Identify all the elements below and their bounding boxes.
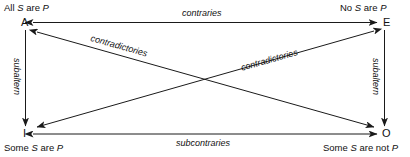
proposition-o-prefix: Some xyxy=(323,142,350,153)
proposition-i: Some S are P xyxy=(4,143,63,153)
proposition-i-prefix: Some xyxy=(4,142,31,153)
proposition-i-predicate: P xyxy=(57,142,63,153)
proposition-e-mid: are xyxy=(361,2,380,13)
proposition-o-predicate: P xyxy=(392,142,398,153)
proposition-e-predicate: P xyxy=(380,2,386,13)
vertex-letter-i: I xyxy=(23,128,26,139)
proposition-a-prefix: All xyxy=(4,2,17,13)
proposition-a-predicate: P xyxy=(43,2,49,13)
relation-label-subcontraries: subcontraries xyxy=(176,139,230,148)
relation-label-subaltern-right: subaltern xyxy=(371,58,380,95)
proposition-e: No S are P xyxy=(340,3,387,13)
relation-label-subaltern-left: subaltern xyxy=(12,58,21,95)
vertex-letter-e: E xyxy=(383,17,390,28)
relation-label-contraries: contraries xyxy=(182,9,222,18)
proposition-o: Some S are not P xyxy=(323,143,398,153)
proposition-a-mid: are xyxy=(24,2,43,13)
proposition-o-mid: are not xyxy=(357,142,392,153)
proposition-e-prefix: No xyxy=(340,2,355,13)
vertex-letter-o: O xyxy=(382,128,391,139)
vertex-letter-a: A xyxy=(21,17,28,28)
proposition-a: All S are P xyxy=(4,3,49,13)
square-of-opposition-lines xyxy=(0,0,410,157)
proposition-i-mid: are xyxy=(38,142,57,153)
square-of-opposition-diagram: A E I O All S are P No S are P Some S ar… xyxy=(0,0,410,157)
